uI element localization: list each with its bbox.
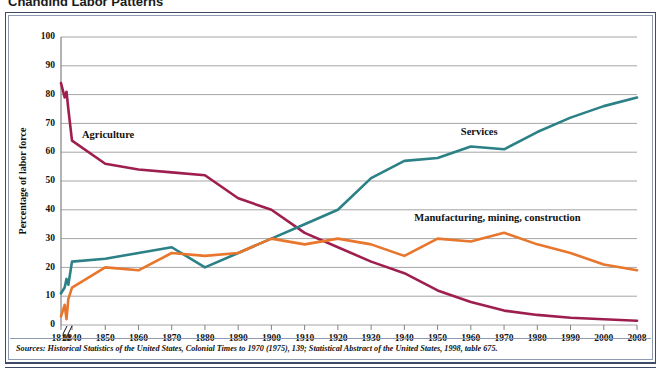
- y-tick-label: 40: [46, 204, 56, 214]
- y-tick-label: 60: [46, 146, 56, 156]
- bottom-rule: [5, 363, 656, 368]
- chart-plot-area: 0102030405060708090100181018401850186018…: [9, 16, 652, 359]
- series-line-services: [61, 97, 637, 293]
- y-tick-label: 20: [46, 262, 56, 272]
- y-tick-label: 30: [46, 233, 56, 243]
- figure-frame: 0102030405060708090100181018401850186018…: [5, 12, 656, 363]
- line-chart: 0102030405060708090100181018401850186018…: [9, 16, 654, 361]
- y-tick-label: 10: [46, 290, 56, 300]
- series-label-manufacturing: Manufacturing, mining, construction: [414, 212, 580, 223]
- y-tick-label: 70: [46, 118, 56, 128]
- y-tick-label: 90: [46, 60, 56, 70]
- series-line-manufacturing: [61, 233, 637, 319]
- series-line-agriculture: [61, 83, 637, 321]
- source-note: Sources: Historical Statistics of the Un…: [10, 344, 498, 353]
- y-tick-label: 80: [46, 89, 56, 99]
- page-title: Changing Labor Patterns: [8, 0, 163, 6]
- y-tick-label: 50: [46, 175, 56, 185]
- source-bar: Sources: Historical Statistics of the Un…: [10, 338, 651, 358]
- y-tick-label: 100: [41, 31, 56, 41]
- y-tick-label: 0: [50, 319, 55, 329]
- series-label-services: Services: [461, 126, 498, 137]
- series-label-agriculture: Agriculture: [82, 129, 135, 140]
- y-axis-title: Percentage of labor force: [17, 127, 28, 234]
- figure-inner: 0102030405060708090100181018401850186018…: [8, 15, 653, 360]
